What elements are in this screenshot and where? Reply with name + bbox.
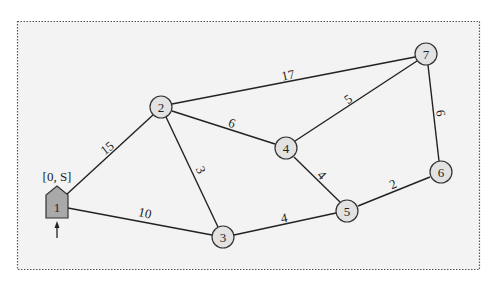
node-4: 4 xyxy=(275,137,297,159)
node-label-2: 2 xyxy=(158,100,165,115)
node-label-5: 5 xyxy=(344,204,351,219)
node-3: 3 xyxy=(212,226,234,248)
node-7: 7 xyxy=(415,43,437,65)
node-label-4: 4 xyxy=(283,141,290,156)
graph-diagram: 15 10 3 6 17 5 4 4 2 6 [0, S] 1 2 3 4 5 xyxy=(0,0,501,284)
node-5: 5 xyxy=(336,200,358,222)
node-label-1: 1 xyxy=(54,200,61,215)
node-label-6: 6 xyxy=(438,165,445,180)
node-label-7: 7 xyxy=(423,47,430,62)
node-6: 6 xyxy=(430,161,452,183)
start-label: [0, S] xyxy=(43,169,72,184)
node-2: 2 xyxy=(150,96,172,118)
node-label-3: 3 xyxy=(220,230,227,245)
